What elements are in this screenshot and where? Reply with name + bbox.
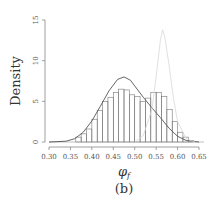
histogram-bar [108,97,113,142]
histogram-chart: 0510150.300.350.400.450.500.550.600.65De… [0,0,219,199]
histogram-bar [119,89,124,142]
histogram-bar [162,96,167,142]
histogram-bar [113,92,118,142]
density-curve-light [135,30,195,142]
chart-container: 0510150.300.350.400.450.500.550.600.65De… [0,0,219,199]
x-tick-label: 0.55 [148,153,164,161]
histogram-bar [97,110,102,142]
histogram-bar [135,96,140,142]
histogram-bar [167,109,172,142]
histogram-bar [92,119,97,142]
histogram-bar [156,92,161,142]
y-tick-label: 10 [32,56,40,65]
x-tick-label: 0.35 [63,153,79,161]
histogram-bar [87,129,92,142]
x-tick-label: 0.45 [105,153,121,161]
x-axis-label: φf [118,164,132,180]
histogram-bar [129,95,134,142]
x-tick-label: 0.50 [127,153,143,161]
y-tick-label: 0 [32,140,40,144]
x-tick-label: 0.60 [170,153,186,161]
figure-caption: (b) [115,181,133,196]
histogram-bar [76,137,81,142]
x-tick-label: 0.40 [84,153,100,161]
y-axis-label: Density [8,55,23,106]
x-tick-label: 0.65 [191,153,207,161]
x-tick-label: 0.30 [41,153,57,161]
histogram-bar [124,90,129,142]
histogram-bar [81,134,86,142]
histogram-bar [103,101,108,142]
y-tick-label: 5 [32,99,40,103]
y-tick-label: 15 [32,16,40,25]
